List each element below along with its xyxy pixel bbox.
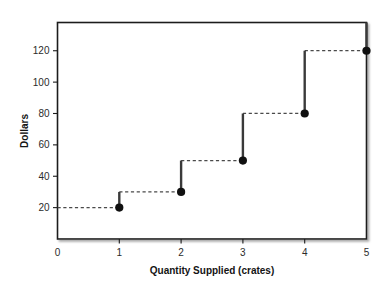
x-axis-title: Quantity Supplied (crates) (150, 265, 274, 276)
data-point-4 (362, 47, 370, 55)
y-tick-label-5: 120 (33, 45, 50, 56)
x-tick-label-2: 2 (178, 247, 184, 258)
y-tick-label-1: 40 (38, 171, 50, 182)
data-point-1 (177, 188, 185, 196)
y-tick-label-4: 100 (33, 77, 50, 88)
x-tick-label-4: 4 (302, 247, 308, 258)
x-tick-label-1: 1 (117, 247, 123, 258)
x-tick-label-3: 3 (240, 247, 246, 258)
x-tick-label-5: 5 (364, 247, 370, 258)
x-tick-label-0: 0 (55, 247, 61, 258)
chart-canvas: 20406080100120 012345 Dollars Quantity S… (0, 0, 391, 285)
y-tick-label-2: 60 (38, 139, 50, 150)
data-point-0 (115, 204, 123, 212)
data-point-2 (239, 156, 247, 164)
y-tick-label-3: 80 (38, 108, 50, 119)
data-point-3 (301, 109, 309, 117)
y-tick-label-0: 20 (38, 202, 50, 213)
plot-frame (58, 23, 367, 240)
y-axis-title: Dollars (19, 114, 30, 148)
supply-curve-chart: 20406080100120 012345 Dollars Quantity S… (0, 0, 391, 285)
